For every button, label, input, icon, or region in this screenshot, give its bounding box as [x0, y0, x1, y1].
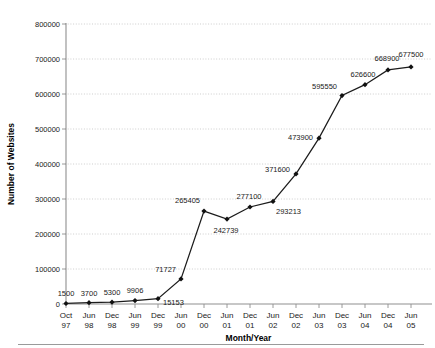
x-axis-tick-label-year: 04 [361, 321, 370, 330]
x-axis-tick-label-year: 98 [85, 321, 94, 330]
x-axis-tick-label-year: 99 [131, 321, 140, 330]
data-point-label: 371600 [265, 165, 290, 174]
x-axis-tick-label-year: 04 [384, 321, 393, 330]
y-axis-tick-label: 600000 [35, 90, 60, 99]
x-axis-tick-label-year: 00 [177, 321, 186, 330]
data-point-marker[interactable] [201, 209, 206, 214]
x-axis-tick-label-year: 01 [246, 321, 255, 330]
x-axis-tick-label-year: 99 [154, 321, 163, 330]
data-point-label: 595550 [312, 82, 337, 91]
x-axis-tick-label-month: Jun [129, 311, 142, 320]
x-axis-tick-label-month: Jun [359, 311, 372, 320]
x-axis-title: Month/Year [226, 333, 273, 343]
x-axis-tick-label-month: Dec [197, 311, 211, 320]
y-axis-title: Number of Websites [6, 123, 16, 205]
y-axis-tick-label: 0 [56, 300, 60, 309]
x-axis-tick-label-month: Oct [60, 311, 73, 320]
data-point-marker[interactable] [247, 204, 252, 209]
data-point-marker[interactable] [224, 216, 229, 221]
y-axis-tick-label: 300000 [35, 195, 60, 204]
y-axis-tick-label: 200000 [35, 230, 60, 239]
y-axis-tick-label: 800000 [35, 20, 60, 29]
data-point-label: 668900 [374, 54, 399, 63]
data-point-marker[interactable] [63, 301, 68, 306]
data-point-marker[interactable] [132, 298, 137, 303]
x-axis-tick-label-month: Jun [175, 311, 188, 320]
data-point-label: 1500 [58, 289, 75, 298]
data-point-label: 242739 [213, 226, 238, 235]
data-point-label: 15153 [163, 298, 184, 307]
data-point-label: 265405 [175, 196, 200, 205]
x-axis-tick-label-year: 00 [200, 321, 209, 330]
x-axis-tick-label-month: Dec [289, 311, 303, 320]
x-axis-tick-label-month: Jun [405, 311, 418, 320]
x-axis-tick-label-month: Jun [221, 311, 234, 320]
x-axis-tick-label-month: Dec [151, 311, 165, 320]
data-point-label: 71727 [155, 265, 176, 274]
x-axis-tick-label-month: Jun [313, 311, 326, 320]
x-axis-tick-label-month: Dec [381, 311, 395, 320]
data-point-label: 626600 [350, 70, 375, 79]
chart-canvas: 0100000200000300000400000500000600000700… [0, 0, 435, 348]
data-series-line [66, 67, 411, 304]
x-axis-tick-label-year: 02 [269, 321, 278, 330]
data-point-marker[interactable] [408, 64, 413, 69]
x-axis-tick-label-year: 02 [292, 321, 301, 330]
x-axis-tick-label-year: 03 [338, 321, 347, 330]
x-axis-tick-label-year: 03 [315, 321, 324, 330]
y-axis-tick-label: 400000 [35, 160, 60, 169]
y-axis-tick-label: 700000 [35, 55, 60, 64]
data-point-label: 3700 [81, 289, 98, 298]
line-chart-figure: 0100000200000300000400000500000600000700… [0, 0, 435, 348]
x-axis-tick-label-year: 05 [407, 321, 416, 330]
x-axis-tick-label-month: Dec [335, 311, 349, 320]
data-point-label: 473900 [288, 133, 313, 142]
x-axis-tick-label-year: 01 [223, 321, 232, 330]
data-point-label: 277100 [236, 192, 261, 201]
x-axis-tick-label-year: 97 [62, 321, 71, 330]
x-axis-tick-label-month: Jun [83, 311, 96, 320]
data-point-label: 293213 [276, 207, 301, 216]
data-point-label: 5300 [104, 288, 121, 297]
y-axis-tick-label: 100000 [35, 265, 60, 274]
data-point-label: 677500 [398, 50, 423, 59]
x-axis-tick-label-month: Dec [243, 311, 257, 320]
y-axis-tick-label: 500000 [35, 125, 60, 134]
x-axis-tick-label-month: Jun [267, 311, 280, 320]
x-axis-tick-label-month: Dec [105, 311, 119, 320]
data-point-label: 9906 [127, 286, 144, 295]
x-axis-tick-label-year: 98 [108, 321, 117, 330]
